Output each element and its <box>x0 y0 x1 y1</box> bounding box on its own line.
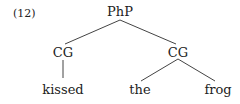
leaf-the: the <box>129 83 150 96</box>
branch-cg-the <box>141 59 178 81</box>
branch-php-left-cg <box>65 20 120 44</box>
node-php: PhP <box>107 5 133 18</box>
node-right-cg: CG <box>168 46 188 59</box>
leaf-kissed: kissed <box>42 83 83 96</box>
branch-php-right-cg <box>120 20 176 44</box>
branch-cg-frog <box>178 59 215 81</box>
leaf-frog: frog <box>204 83 231 96</box>
node-left-cg: CG <box>53 46 73 59</box>
